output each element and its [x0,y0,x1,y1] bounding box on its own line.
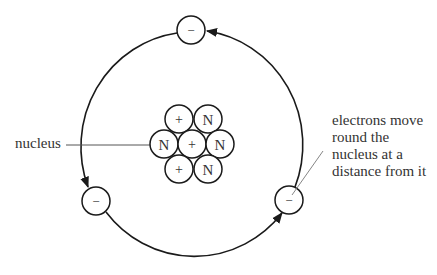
proton-symbol: + [175,112,183,127]
nucleus-label: nucleus [15,135,61,152]
neutron-symbol: N [159,137,170,153]
neutron: N [194,155,222,183]
neutron-symbol: N [203,162,214,178]
proton-symbol: + [175,162,183,177]
neutron: N [206,130,234,158]
electron-annotation-line-3: nucleus at a [332,146,426,163]
electron-annotation-line-2: round the [332,129,426,146]
neutron-symbol: N [203,112,214,128]
electron-annotation-line-4: distance from it [332,163,426,180]
nucleus: +NN+N+N [150,105,234,183]
electron-annotation-line-1: electrons move [332,112,426,129]
electron-symbol: − [285,193,292,208]
proton-symbol: + [188,137,196,152]
neutron: N [194,105,222,133]
electron: − [275,186,303,214]
orbit-arc-top-to-left [81,33,177,187]
proton: + [165,155,193,183]
proton: + [165,105,193,133]
electron-symbol: − [92,194,99,209]
proton: + [178,130,206,158]
orbit-arc-left-to-right [106,212,282,256]
electron: − [82,187,110,215]
neutron-symbol: N [215,137,226,153]
electron-leader-line [292,151,323,195]
neutron: N [150,130,178,158]
electron-annotation: electrons move round the nucleus at a di… [332,112,426,180]
electron: − [177,16,205,44]
electron-symbol: − [187,23,194,38]
